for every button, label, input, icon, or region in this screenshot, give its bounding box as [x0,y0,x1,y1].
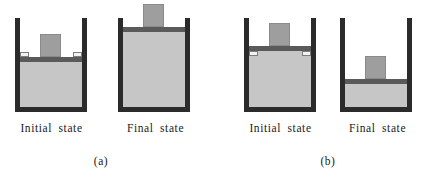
piston [20,57,82,62]
panel-b: Initial state Final state (b) [222,0,444,182]
cylinder-base [15,107,87,112]
cylinder-base [244,107,316,112]
cylinder-b-initial [244,18,316,112]
latch-pin-left-icon [249,51,258,56]
cylinder-base [340,107,412,112]
cylinder-base [118,107,190,112]
panel-a: Initial state Final state (a) [0,0,222,182]
piston [345,79,407,84]
label-a-initial-state: Initial state [9,122,94,134]
gas-region [249,51,311,107]
cylinder-right-wall [311,18,316,112]
gas-region [345,84,407,107]
latch-pin-left-icon [20,52,29,57]
cylinder-right-wall [407,18,412,112]
piston [123,27,185,32]
cylinder-a-final [118,18,190,112]
latch-pin-right-icon [302,51,311,56]
label-b-final-state: Final state [335,122,420,134]
physics-figure: Initial state Final state (a) Initial st… [0,0,444,182]
weight-block [365,56,386,79]
cylinder-right-wall [82,18,87,112]
label-a-final-state: Final state [113,122,198,134]
latch-pin-right-icon [73,52,82,57]
label-b-initial-state: Initial state [238,122,323,134]
cylinder-b-final [340,18,412,112]
gas-region [123,32,185,107]
caption-panel-a: (a) [81,155,121,167]
weight-block [269,23,290,46]
gas-region [20,62,82,107]
cylinder-a-initial [15,18,87,112]
caption-panel-b: (b) [308,155,348,167]
weight-block [40,34,61,57]
cylinder-right-wall [185,18,190,112]
weight-block [143,4,164,27]
